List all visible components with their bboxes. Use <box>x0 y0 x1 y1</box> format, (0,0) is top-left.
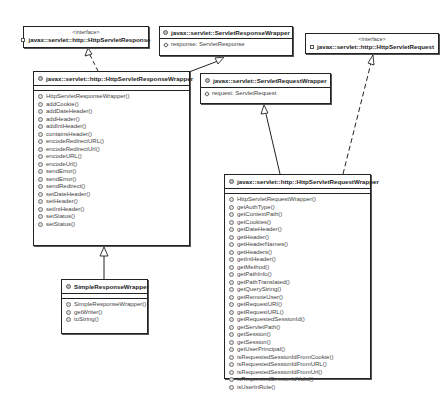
field-icon <box>163 42 169 48</box>
method-icon <box>229 310 234 315</box>
realization-edge-request <box>343 63 371 174</box>
method-item: isRequestedSessionIdFromURL() <box>225 361 370 369</box>
method-icon <box>38 169 43 174</box>
method-icon <box>229 340 234 345</box>
method-item: sendError() <box>34 168 189 176</box>
method-item: containsHeader() <box>34 131 189 139</box>
class-icon <box>66 284 71 289</box>
generalization-arrowhead-simple <box>100 247 108 256</box>
method-icon <box>38 117 43 122</box>
class-header: <interface> javax::servlet::http::HttpSe… <box>306 34 438 52</box>
method-icon <box>38 177 43 182</box>
class-icon <box>38 76 43 81</box>
method-item: getPathTranslated() <box>225 279 370 287</box>
class-header: javax::servlet::http::HttpServletRequest… <box>225 175 370 188</box>
method-icon <box>38 94 43 99</box>
class-header: javax::servlet::ServletRequestWrapper <box>201 74 330 87</box>
method-item: getCookies() <box>225 219 370 227</box>
class-box-servlet-response-wrapper[interactable]: javax::servlet::ServletResponseWrapper r… <box>159 26 293 56</box>
interface-icon <box>21 38 25 42</box>
method-icon <box>66 310 71 315</box>
class-box-simple-response-wrapper[interactable]: SimpleResponseWrapper SimpleResponseWrap… <box>61 279 148 334</box>
class-box-http-servlet-request-wrapper[interactable]: javax::servlet::http::HttpServletRequest… <box>224 174 371 379</box>
method-icon <box>229 280 234 285</box>
class-header: SimpleResponseWrapper <box>62 280 147 293</box>
method-item: addCookie() <box>34 101 189 109</box>
realization-arrowhead-response <box>85 48 92 56</box>
class-box-servlet-request-wrapper[interactable]: javax::servlet::ServletRequestWrapper re… <box>200 73 331 104</box>
method-icon <box>229 347 234 352</box>
method-item: getHeader() <box>225 234 370 242</box>
field-icon <box>204 91 210 97</box>
class-header: <interface> javax::servlet::http::HttpSe… <box>24 27 148 45</box>
method-icon <box>229 257 234 262</box>
class-icon <box>229 179 234 184</box>
class-box-http-servlet-response-wrapper[interactable]: javax::servlet::http::HttpServletRespons… <box>33 71 190 246</box>
fields-section: request: ServletRequest <box>201 87 330 101</box>
class-header: javax::servlet::ServletResponseWrapper <box>160 27 292 38</box>
class-box-http-servlet-request[interactable]: <interface> javax::servlet::http::HttpSe… <box>305 33 439 54</box>
stereotype-label: <interface> <box>72 29 100 36</box>
method-item: setStatus() <box>34 221 189 229</box>
class-name: SimpleResponseWrapper <box>74 283 149 290</box>
method-item: addIntHeader() <box>34 123 189 131</box>
class-name: javax::servlet::http::HttpServletRespons… <box>46 75 193 82</box>
method-icon <box>229 362 234 367</box>
method-icon <box>229 235 234 240</box>
methods-section: HttpServletResponseWrapper() addCookie()… <box>34 90 189 231</box>
method-item: setStatus() <box>34 213 189 221</box>
method-icon <box>38 214 43 219</box>
class-icon <box>205 78 210 83</box>
stereotype-label: <interface> <box>358 36 386 43</box>
interface-icon <box>310 45 314 49</box>
method-icon <box>229 220 234 225</box>
method-item: encodeURL() <box>34 153 189 161</box>
method-icon <box>229 377 234 382</box>
method-icon <box>38 184 43 189</box>
method-item: isRequestedSessionIdValid() <box>225 376 370 384</box>
method-icon <box>229 197 234 202</box>
method-item: isUserInRole() <box>225 384 370 392</box>
method-item: getUserPrincipal() <box>225 346 370 354</box>
method-icon <box>66 317 71 322</box>
method-icon <box>229 265 234 270</box>
method-icon <box>229 370 234 375</box>
method-icon <box>229 332 234 337</box>
generalization-edge-request-wrapper <box>266 114 280 174</box>
method-item: getAuthType() <box>225 204 370 212</box>
method-icon <box>229 385 234 390</box>
method-item: encodeUrl() <box>34 161 189 169</box>
fields-section: response: ServletResponse <box>160 38 292 52</box>
class-name: javax::servlet::http::HttpServletRequest… <box>237 178 379 185</box>
method-item: getHeaders() <box>225 249 370 257</box>
methods-section: HttpServletRequestWrapper() getAuthType(… <box>225 193 370 394</box>
generalization-arrowhead-response-wrapper <box>215 57 224 64</box>
generalization-edge-response-wrapper <box>189 61 218 72</box>
method-item: getMethod() <box>225 264 370 272</box>
realization-arrowhead-request <box>368 55 374 65</box>
method-icon <box>38 207 43 212</box>
method-item: sendRedirect() <box>34 183 189 191</box>
method-icon <box>229 250 234 255</box>
method-item: getIntHeader() <box>225 256 370 264</box>
method-icon <box>38 154 43 159</box>
method-icon <box>38 139 43 144</box>
method-icon <box>229 317 234 322</box>
class-name: javax::servlet::http::HttpServletRespons… <box>28 36 150 43</box>
method-item: addHeader() <box>34 116 189 124</box>
method-icon <box>38 109 43 114</box>
method-item: isRequestedSessionIdFromCookie() <box>225 354 370 362</box>
method-icon <box>229 272 234 277</box>
method-icon <box>38 192 43 197</box>
method-icon <box>229 205 234 210</box>
method-icon <box>229 325 234 330</box>
method-item: getRequestedSessionId() <box>225 316 370 324</box>
field-item: request: ServletRequest <box>201 90 330 98</box>
class-header: javax::servlet::http::HttpServletRespons… <box>34 72 189 85</box>
method-item: encodeRedirectURL() <box>34 138 189 146</box>
class-box-http-servlet-response[interactable]: <interface> javax::servlet::http::HttpSe… <box>23 26 149 48</box>
class-icon <box>163 30 168 35</box>
method-item: SimpleResponseWrapper() <box>62 301 147 309</box>
method-item: sendError() <box>34 176 189 184</box>
method-icon <box>38 162 43 167</box>
